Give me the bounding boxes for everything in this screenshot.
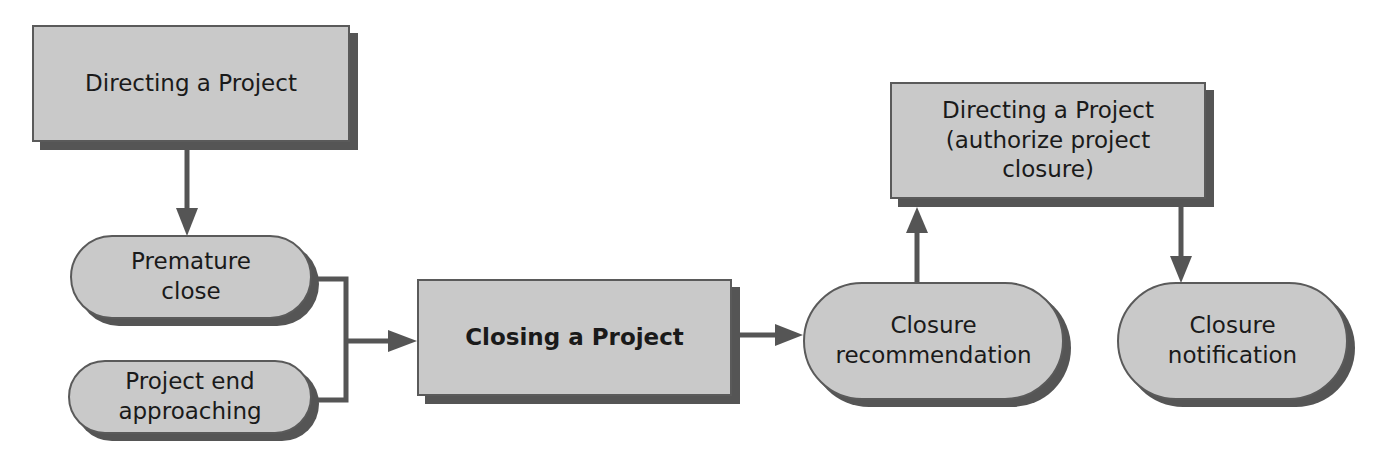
node-closure-recommendation: Closure recommendation (803, 282, 1064, 400)
arrowhead-up-icon (906, 207, 928, 233)
arrowhead-right-icon (388, 330, 417, 352)
node-closing-project: Closing a Project (417, 279, 732, 396)
arrowhead-down-icon (1170, 256, 1192, 283)
node-premature-close: Premature close (70, 235, 312, 319)
arrowhead-right-icon (775, 324, 803, 346)
node-label: Directing a Project (85, 69, 297, 99)
edge-bracket-merge (312, 279, 346, 400)
node-closure-notification: Closure notification (1117, 282, 1348, 400)
node-label: Closure recommendation (835, 311, 1031, 371)
node-label: Directing a Project (authorize project c… (942, 96, 1154, 186)
node-label: Project end approaching (118, 367, 261, 427)
node-label: Closure notification (1168, 311, 1297, 371)
arrowhead-down-icon (176, 208, 198, 236)
node-label: Closing a Project (465, 323, 684, 353)
node-directing-authorize: Directing a Project (authorize project c… (890, 82, 1206, 199)
node-directing-project: Directing a Project (32, 25, 350, 142)
node-project-end-approaching: Project end approaching (68, 360, 312, 434)
node-label: Premature close (131, 247, 251, 307)
